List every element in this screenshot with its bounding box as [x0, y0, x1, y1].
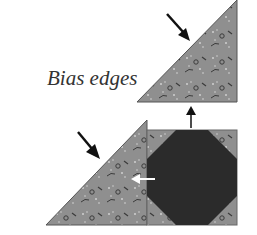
bottom-left-triangle — [46, 120, 147, 225]
bias-edge-arrow-top — [167, 14, 190, 41]
top-half-square-triangle — [137, 0, 237, 102]
bias-edge-arrow-bottom — [78, 132, 100, 159]
bias-edges-label: Bias edges — [47, 66, 137, 91]
snowball-square — [147, 130, 237, 225]
bias-edges-diagram — [0, 0, 257, 235]
assembly-arrow-up — [186, 106, 196, 128]
